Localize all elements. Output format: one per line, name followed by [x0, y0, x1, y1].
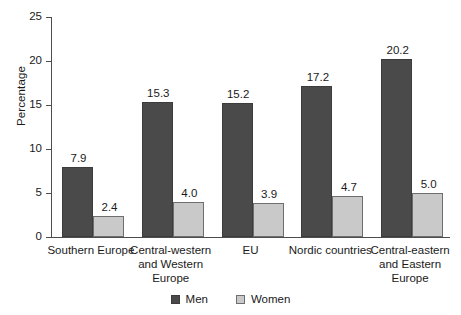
- bar-value-label: 2.4: [90, 201, 130, 214]
- y-axis-tick: 10: [0, 149, 51, 150]
- x-axis-category-label: Central-easternand EasternEurope: [365, 243, 455, 285]
- legend-label-men: Men: [186, 292, 208, 306]
- bar-value-label: 4.0: [169, 187, 209, 200]
- bar-men[interactable]: 15.2: [222, 103, 253, 237]
- legend-entry-men[interactable]: Men: [171, 292, 208, 306]
- bar-men[interactable]: 20.2: [381, 59, 412, 237]
- x-axis-category-label: Central-westernand WesternEurope: [126, 243, 216, 285]
- bar-women[interactable]: 5.0: [412, 193, 443, 237]
- category-label-line: Europe: [126, 271, 216, 285]
- y-axis-tick: 20: [0, 61, 51, 62]
- bar-group: 20.25.0: [370, 17, 450, 237]
- category-label-line: Central-western: [126, 243, 216, 257]
- legend-entry-women[interactable]: Women: [236, 292, 290, 306]
- bar-value-label: 15.3: [138, 87, 178, 100]
- bar-group: 7.92.4: [51, 17, 131, 237]
- x-axis-category-label: Southern Europe: [46, 243, 136, 257]
- bar-value-label: 3.9: [249, 188, 289, 201]
- bar-women[interactable]: 4.0: [173, 202, 204, 237]
- y-axis-tick-mark: [46, 237, 51, 238]
- women-swatch-icon: [236, 295, 245, 304]
- y-axis-tick-label: 10: [29, 142, 42, 155]
- x-axis-category-label: Nordic countries: [285, 243, 375, 257]
- bar-men[interactable]: 17.2: [301, 86, 332, 237]
- bar-value-label: 17.2: [298, 71, 338, 84]
- grouped-bar-chart: Percentage 0510152025 7.92.415.34.015.23…: [0, 0, 461, 315]
- y-axis-tick-label: 20: [29, 54, 42, 67]
- bar-value-label: 15.2: [218, 88, 258, 101]
- y-axis-tick: 5: [0, 193, 51, 194]
- plot-area: 7.92.415.34.015.23.917.24.720.25.0: [51, 17, 450, 237]
- bar-women[interactable]: 2.4: [93, 216, 124, 237]
- bar-group: 17.24.7: [290, 17, 370, 237]
- category-label-line: and Eastern: [365, 257, 455, 271]
- legend-label-women: Women: [251, 292, 290, 306]
- men-swatch-icon: [171, 295, 180, 304]
- y-axis-tick: 15: [0, 105, 51, 106]
- category-label-line: Central-eastern: [365, 243, 455, 257]
- bar-men[interactable]: 7.9: [62, 167, 93, 237]
- category-label-line: Nordic countries: [285, 243, 375, 257]
- bar-value-label: 5.0: [409, 178, 449, 191]
- y-axis-tick: 0: [0, 237, 51, 238]
- bar-value-label: 4.7: [329, 181, 369, 194]
- bar-women[interactable]: 4.7: [332, 196, 363, 237]
- category-label-line: and Western: [126, 257, 216, 271]
- bar-value-label: 20.2: [378, 44, 418, 57]
- bar-value-label: 7.9: [59, 152, 99, 165]
- bar-men[interactable]: 15.3: [142, 102, 173, 237]
- category-label-line: Southern Europe: [46, 243, 136, 257]
- bar-group: 15.34.0: [131, 17, 211, 237]
- category-label-line: EU: [206, 243, 296, 257]
- y-axis-tick: 25: [0, 17, 51, 18]
- x-axis-category-labels: Southern EuropeCentral-westernand Wester…: [51, 243, 450, 289]
- y-axis-tick-label: 5: [36, 186, 42, 199]
- y-axis-tick-label: 0: [36, 230, 42, 243]
- category-label-line: Europe: [365, 271, 455, 285]
- x-axis-category-label: EU: [206, 243, 296, 257]
- x-axis-line: [51, 237, 450, 238]
- y-axis-tick-label: 25: [29, 10, 42, 23]
- chart-legend: Men Women: [0, 292, 461, 306]
- y-axis-tick-label: 15: [29, 98, 42, 111]
- bar-group: 15.23.9: [211, 17, 291, 237]
- bar-women[interactable]: 3.9: [253, 203, 284, 237]
- y-axis-title: Percentage: [15, 31, 27, 161]
